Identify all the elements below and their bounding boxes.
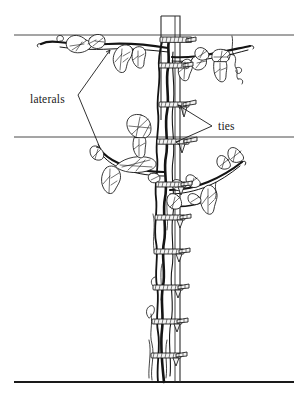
label-laterals: laterals bbox=[30, 93, 65, 105]
tie bbox=[154, 248, 190, 262]
vine-trunk bbox=[146, 40, 174, 382]
grapevine-training-diagram: laterals ties bbox=[0, 0, 307, 402]
grape-leaf bbox=[116, 157, 156, 173]
grape-leaf bbox=[90, 146, 104, 160]
label-ties: ties bbox=[218, 120, 235, 132]
grape-leaf bbox=[132, 47, 146, 69]
grape-leaf bbox=[212, 49, 230, 82]
grape-leaf bbox=[167, 194, 182, 210]
tie bbox=[159, 100, 196, 117]
tie bbox=[155, 214, 191, 228]
tie bbox=[159, 62, 193, 68]
grape-leaf bbox=[188, 194, 201, 205]
laterals-pointer-lower bbox=[78, 95, 100, 148]
grape-leaf bbox=[195, 48, 209, 61]
tie bbox=[160, 37, 196, 42]
lateral-middle-left bbox=[90, 146, 164, 194]
grape-leaf bbox=[228, 148, 244, 163]
ties-pointer-upper bbox=[178, 105, 212, 126]
lateral-top-left bbox=[37, 34, 168, 72]
grape-leaf bbox=[200, 185, 217, 214]
grape-leaf bbox=[148, 173, 160, 183]
lateral-top-right bbox=[172, 36, 254, 84]
diagram-canvas: laterals ties bbox=[0, 0, 307, 402]
grape-leaf bbox=[102, 166, 121, 194]
grape-leaf bbox=[66, 34, 105, 52]
grape-leaf bbox=[127, 114, 151, 157]
tie bbox=[157, 137, 197, 153]
tie bbox=[151, 352, 187, 366]
laterals-pointer-upper bbox=[78, 50, 110, 95]
